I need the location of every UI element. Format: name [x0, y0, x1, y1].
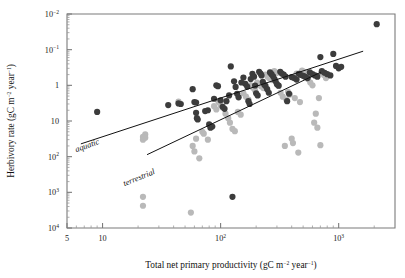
y-tick-label: 10−1: [45, 44, 59, 54]
data-point-aquatic: [205, 107, 211, 113]
data-point-terrestrial: [317, 142, 323, 148]
data-point-terrestrial: [188, 210, 194, 216]
data-point-aquatic: [258, 72, 264, 78]
data-point-terrestrial: [295, 150, 301, 156]
data-point-aquatic: [193, 110, 199, 116]
data-point-terrestrial: [290, 140, 296, 146]
data-point-aquatic: [240, 74, 246, 80]
data-point-terrestrial: [227, 120, 233, 126]
data-point-terrestrial: [282, 143, 288, 149]
x-tick-label: 10: [98, 234, 106, 243]
data-point-aquatic: [94, 109, 100, 115]
data-point-aquatic: [330, 51, 336, 57]
data-point-terrestrial: [193, 136, 199, 142]
y-tick-label: 104: [48, 223, 59, 233]
chart-canvas: 10410310210110−110−2510102103aquaticterr…: [0, 0, 405, 278]
data-point-terrestrial: [316, 95, 322, 101]
data-point-terrestrial: [140, 194, 146, 200]
data-point-aquatic: [317, 54, 323, 60]
data-point-terrestrial: [205, 137, 211, 143]
data-point-aquatic: [195, 116, 201, 122]
data-point-terrestrial: [238, 112, 244, 118]
data-point-terrestrial: [309, 82, 315, 88]
data-point-aquatic: [293, 76, 299, 82]
annotation-aquatic: aquatic: [74, 137, 101, 154]
data-point-terrestrial: [142, 135, 148, 141]
y-tick-label: 103: [48, 187, 59, 197]
data-point-aquatic: [286, 91, 292, 97]
data-point-aquatic: [235, 94, 241, 100]
data-point-aquatic: [229, 194, 235, 200]
data-point-aquatic: [266, 90, 272, 96]
data-point-aquatic: [165, 102, 171, 108]
y-tick-label: 1: [55, 81, 59, 90]
data-point-aquatic: [223, 98, 229, 104]
data-point-terrestrial: [232, 128, 238, 134]
y-tick-label: 102: [48, 151, 59, 161]
data-point-aquatic: [374, 21, 380, 27]
data-point-aquatic: [215, 83, 221, 89]
data-point-aquatic: [327, 72, 333, 78]
data-point-aquatic: [193, 99, 199, 105]
data-point-aquatic: [221, 106, 227, 112]
data-point-aquatic: [276, 83, 282, 89]
data-point-aquatic: [233, 84, 239, 90]
data-point-terrestrial: [297, 99, 303, 105]
data-point-terrestrial: [213, 106, 219, 112]
data-point-terrestrial: [292, 95, 298, 101]
data-point-terrestrial: [313, 111, 319, 117]
data-point-aquatic: [251, 74, 257, 80]
x-tick-label: 103: [333, 233, 344, 243]
data-point-aquatic: [178, 101, 184, 107]
y-tick-label: 10: [51, 117, 59, 126]
annotation-terrestrial: terrestrial: [122, 167, 157, 188]
data-point-aquatic: [228, 63, 234, 69]
data-point-terrestrial: [314, 125, 320, 131]
y-axis-title: Herbivory rate (gC m−2 year−1): [6, 64, 17, 178]
data-point-terrestrial: [201, 131, 207, 137]
data-point-aquatic: [338, 64, 344, 70]
x-tick-label: 5: [65, 234, 69, 243]
data-point-terrestrial: [196, 155, 202, 161]
data-point-terrestrial: [190, 143, 196, 149]
x-axis-title: Total net primary productivity (gC m−2 y…: [145, 260, 316, 271]
y-tick-label: 10−2: [45, 9, 59, 19]
data-point-aquatic: [284, 98, 290, 104]
herbivory-scatter-figure: 10410310210110−110−2510102103aquaticterr…: [0, 0, 405, 278]
data-point-terrestrial: [191, 148, 197, 154]
data-point-terrestrial: [140, 203, 146, 209]
data-point-aquatic: [255, 92, 261, 98]
data-point-aquatic: [190, 86, 196, 92]
x-tick-label: 102: [215, 233, 226, 243]
data-point-aquatic: [231, 78, 237, 84]
